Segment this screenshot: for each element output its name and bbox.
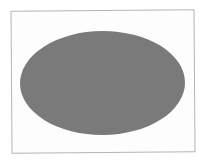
- image-frame: [11, 9, 196, 153]
- gray-ellipse-shape: [20, 30, 186, 135]
